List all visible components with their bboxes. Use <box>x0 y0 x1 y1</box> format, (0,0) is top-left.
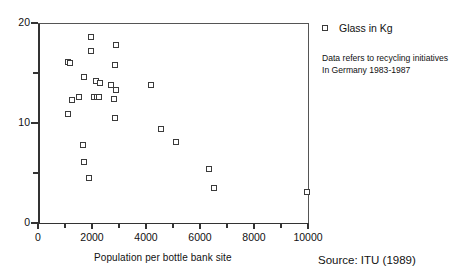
x-tick-7000 <box>226 223 227 228</box>
data-point <box>113 42 119 48</box>
data-point <box>113 87 119 93</box>
data-point <box>81 159 87 165</box>
chart-note-line-1: Data refers to recycling initiatives <box>322 52 448 64</box>
x-tick-9000 <box>280 223 281 228</box>
data-point <box>206 166 212 172</box>
clipped-header-artifact <box>30 0 230 8</box>
y-tick-20 <box>31 22 38 23</box>
data-point <box>88 34 94 40</box>
x-tick-10000 <box>307 223 308 229</box>
x-tick-0 <box>37 223 38 229</box>
data-point <box>69 97 75 103</box>
source-caption: Source: ITU (1989) <box>318 254 416 266</box>
x-tick-label-8000: 8000 <box>224 231 284 243</box>
data-point <box>173 139 179 145</box>
legend-label: Glass in Kg <box>339 22 393 34</box>
legend-marker-icon <box>322 25 328 31</box>
x-tick-5000 <box>172 223 173 228</box>
x-axis-title: Population per bottle bank site <box>94 252 232 263</box>
data-point <box>304 189 310 195</box>
data-point <box>86 175 92 181</box>
y-tick-label-10: 10 <box>2 117 30 127</box>
x-tick-label-10000: 10000 <box>278 231 338 243</box>
data-point <box>148 82 154 88</box>
x-tick-label-6000: 6000 <box>170 231 230 243</box>
data-point <box>112 115 118 121</box>
legend-item-glass: Glass in Kg <box>322 22 393 34</box>
x-tick-1000 <box>64 223 65 228</box>
chart-note-line-2: In Germany 1983-1987 <box>322 64 448 76</box>
data-point <box>97 80 103 86</box>
data-point <box>80 142 86 148</box>
x-tick-6000 <box>199 223 200 229</box>
data-point <box>158 126 164 132</box>
x-tick-label-4000: 4000 <box>116 231 176 243</box>
data-point <box>211 185 217 191</box>
y-tick-10 <box>31 122 38 123</box>
data-point <box>111 96 117 102</box>
x-tick-8000 <box>253 223 254 229</box>
y-tick-label-0: 0 <box>2 217 30 227</box>
data-point <box>81 74 87 80</box>
scatter-chart: 01020 0200040006000800010000 Population … <box>0 0 464 278</box>
x-tick-3000 <box>118 223 119 228</box>
y-tick-label-20: 20 <box>2 17 30 27</box>
data-point <box>96 94 102 100</box>
data-point <box>88 48 94 54</box>
chart-note: Data refers to recycling initiatives In … <box>322 52 448 76</box>
legend: Glass in Kg <box>322 22 393 34</box>
x-tick-4000 <box>145 223 146 229</box>
data-point <box>112 62 118 68</box>
data-points-layer <box>38 23 308 223</box>
x-tick-2000 <box>91 223 92 229</box>
data-point <box>76 94 82 100</box>
data-point <box>65 111 71 117</box>
data-point <box>67 60 73 66</box>
x-tick-label-0: 0 <box>8 231 68 243</box>
x-tick-label-2000: 2000 <box>62 231 122 243</box>
